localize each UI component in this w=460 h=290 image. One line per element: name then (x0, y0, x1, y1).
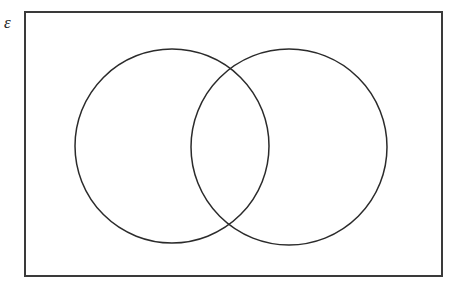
universal-set-rectangle (25, 12, 442, 276)
universal-set-label: ε (4, 14, 11, 31)
right-set-circle (191, 49, 387, 245)
venn-diagram-svg (0, 0, 460, 290)
venn-diagram-canvas: ε (0, 0, 460, 290)
left-set-circle (75, 49, 269, 243)
